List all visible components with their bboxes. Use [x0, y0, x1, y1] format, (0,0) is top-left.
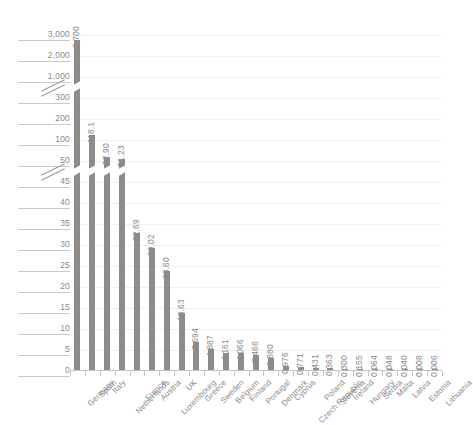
y-axis-tick: 200	[18, 113, 70, 125]
bar	[164, 271, 170, 370]
y-axis-tick-rule	[18, 313, 70, 314]
y-axis-tick: 3,000	[18, 29, 70, 41]
y-axis-tick-label: 2,000	[18, 50, 70, 61]
x-axis-tick	[442, 371, 443, 376]
x-axis-tick	[100, 371, 101, 376]
gridline	[70, 287, 442, 288]
x-axis-tick	[85, 371, 86, 376]
x-axis-tick	[189, 371, 190, 376]
y-axis-tick: 100	[18, 134, 70, 146]
gridline	[70, 140, 442, 141]
bar-value-label: 2.880	[265, 344, 275, 366]
gridline	[70, 245, 442, 246]
bar-break-notch	[73, 164, 81, 176]
bar-value-label: 23.60	[161, 257, 171, 279]
y-axis-break-marker	[40, 166, 66, 178]
y-axis-tick-label: 40	[18, 197, 70, 208]
x-axis-tick	[427, 371, 428, 376]
bar	[74, 40, 80, 370]
y-axis-tick-label: 25	[18, 260, 70, 271]
x-axis-tick	[293, 371, 294, 376]
y-axis-tick-rule	[18, 40, 70, 41]
x-axis-tick	[115, 371, 116, 376]
y-axis-tick-label: 200	[18, 113, 70, 124]
x-axis-tick	[412, 371, 413, 376]
bar-value-label: 0.040	[399, 355, 409, 377]
bar-value-label: 13.63	[176, 299, 186, 321]
y-axis-tick-rule	[18, 250, 70, 251]
x-axis-tick	[338, 371, 339, 376]
gridline	[70, 329, 442, 330]
x-axis-tick	[70, 371, 71, 376]
gridline	[70, 119, 442, 120]
y-axis-tick-label: 3,000	[18, 29, 70, 40]
bar-break-notch	[73, 80, 81, 92]
bar	[149, 248, 155, 370]
y-axis-tick: 10	[18, 323, 70, 335]
y-axis-tick-rule	[18, 229, 70, 230]
y-axis-tick-rule	[18, 376, 70, 377]
bar-value-label: 118.1	[86, 122, 96, 143]
bar-value-label: 0.976	[280, 352, 290, 374]
y-axis-tick-label: 20	[18, 281, 70, 292]
y-axis-tick: 5	[18, 344, 70, 356]
x-axis-tick	[353, 371, 354, 376]
gridline	[70, 56, 442, 57]
bar-value-label: 51.23	[116, 146, 126, 168]
y-axis-tick-rule	[18, 292, 70, 293]
y-axis-tick: 15	[18, 302, 70, 314]
x-axis-tick	[263, 371, 264, 376]
x-axis-tick	[174, 371, 175, 376]
x-axis-tick	[234, 371, 235, 376]
x-axis-tick	[249, 371, 250, 376]
x-axis-tick	[397, 371, 398, 376]
gridline	[70, 35, 442, 36]
x-axis-tick	[159, 371, 160, 376]
y-axis-tick-rule	[18, 145, 70, 146]
x-axis-tick	[204, 371, 205, 376]
bar	[179, 313, 185, 370]
bar	[89, 135, 95, 370]
bar-value-label: 3.466	[250, 342, 260, 364]
bar-value-label: 6.694	[190, 328, 200, 350]
y-axis-tick: 25	[18, 260, 70, 272]
x-axis-tick	[278, 371, 279, 376]
y-axis-tick-label: 35	[18, 218, 70, 229]
y-axis-tick-label: 0	[18, 365, 70, 376]
gridline	[70, 98, 442, 99]
x-axis-tick	[382, 371, 383, 376]
bar	[134, 233, 140, 370]
x-axis-tick	[130, 371, 131, 376]
bar-value-label: 0.006	[429, 355, 439, 377]
y-axis-tick: 35	[18, 218, 70, 230]
y-axis-break-marker	[40, 82, 66, 94]
y-axis-tick: 0	[18, 365, 70, 377]
bar-value-label: 2,700	[71, 27, 81, 49]
gridline	[70, 308, 442, 309]
y-axis-tick-label: 15	[18, 302, 70, 313]
y-axis-tick-rule	[18, 103, 70, 104]
x-axis-tick	[144, 371, 145, 376]
y-axis-tick-rule	[18, 124, 70, 125]
x-axis-category-label: UK	[184, 378, 198, 392]
y-axis-tick: 20	[18, 281, 70, 293]
y-axis-tick-label: 100	[18, 134, 70, 145]
y-axis-tick: 30	[18, 239, 70, 251]
y-axis-tick-rule	[18, 208, 70, 209]
y-axis-tick-rule	[18, 355, 70, 356]
bar-value-label: 4.887	[205, 336, 215, 358]
bar-break-notch	[88, 164, 96, 176]
bar-break-notch	[103, 164, 111, 176]
y-axis-tick-rule	[18, 334, 70, 335]
bar-value-label: 4.066	[235, 339, 245, 361]
gridline	[70, 266, 442, 267]
bar-value-label: 32.69	[131, 219, 141, 241]
gridline	[70, 77, 442, 78]
bar-value-label: 0.431	[310, 354, 320, 376]
y-axis-tick-rule	[18, 61, 70, 62]
y-axis-tick: 2,000	[18, 50, 70, 62]
bar-value-label: 0.155	[354, 355, 364, 377]
x-axis-tick	[323, 371, 324, 376]
bar-value-label: 29.02	[146, 234, 156, 256]
